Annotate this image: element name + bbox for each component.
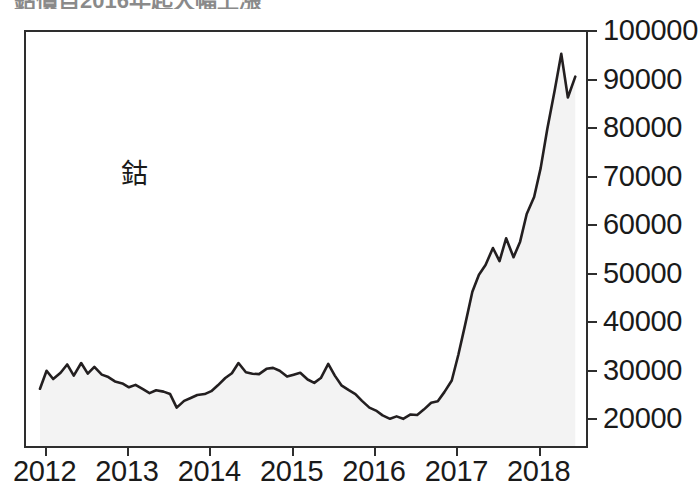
y-tick-label: 90000 [603, 62, 682, 95]
y-tick-label: 70000 [603, 159, 682, 192]
series-label-cobalt: 鈷 [121, 160, 148, 187]
x-tick-label: 2013 [95, 455, 158, 488]
x-tick-label: 2012 [13, 455, 76, 488]
y-tick-mark [588, 127, 597, 129]
y-tick-mark [588, 273, 597, 275]
y-tick-label: 50000 [603, 256, 682, 289]
y-tick-mark [588, 418, 597, 420]
y-tick-mark [588, 79, 597, 81]
plot-area: 鈷 [24, 30, 588, 448]
y-tick-mark [588, 176, 597, 178]
x-tick-label: 2014 [178, 455, 241, 488]
y-tick-label: 30000 [603, 353, 682, 386]
x-tick-label: 2016 [342, 455, 405, 488]
y-tick-label: 20000 [603, 402, 682, 435]
chart-title-cropped: 鈷價自2016年起大幅上漲 [0, 0, 697, 9]
y-tick-mark [588, 370, 597, 372]
y-tick-mark [588, 224, 597, 226]
x-tick-label: 2015 [260, 455, 323, 488]
y-tick-mark [588, 321, 597, 323]
area-series-svg [26, 32, 586, 446]
y-tick-label: 40000 [603, 305, 682, 338]
y-tick-label: 100000 [603, 14, 698, 47]
chart-title-text: 鈷價自2016年起大幅上漲 [14, 0, 261, 9]
y-tick-label: 60000 [603, 208, 682, 241]
x-tick-label: 2018 [507, 455, 570, 488]
y-tick-label: 80000 [603, 111, 682, 144]
y-tick-mark [588, 30, 597, 32]
x-tick-label: 2017 [425, 455, 488, 488]
